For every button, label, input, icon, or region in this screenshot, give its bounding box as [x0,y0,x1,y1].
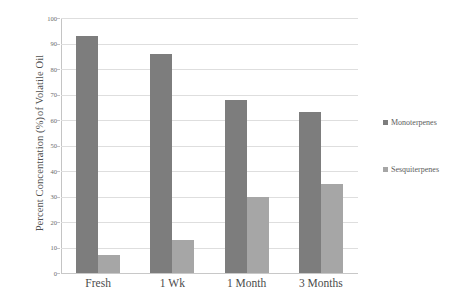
x-axis-tick-label: 3 Months [284,276,358,291]
y-axis-tick-label: 80 [35,66,57,73]
y-axis-tick-mark [57,95,60,96]
y-axis-tick-mark [57,171,60,172]
y-axis-tick-label: 90 [35,40,57,47]
legend-item[interactable]: Monoterpenes [383,118,437,127]
y-axis-tick-label: 40 [35,168,57,175]
y-axis-tick-label: 70 [35,91,57,98]
legend-label: Sesquiterpenes [391,165,439,174]
bar-monoterpenes-1-month[interactable] [225,100,247,273]
y-axis-tick-label: 30 [35,193,57,200]
x-axis-tick-labels: Fresh1 Wk1 Month3 Months [61,276,358,293]
bar-sesquiterpenes-1-wk[interactable] [172,240,194,273]
y-axis-tick-mark [57,273,60,274]
x-axis-tick-label: Fresh [61,276,135,291]
bar-chart: Percent Concentration (%) of Volatile Oi… [0,0,453,293]
y-axis-tick-label: 10 [35,244,57,251]
y-axis-tick-mark [57,44,60,45]
bar-sesquiterpenes-3-months[interactable] [321,184,343,273]
legend-item[interactable]: Sesquiterpenes [383,165,439,174]
y-axis-tick-mark [57,197,60,198]
bar-sesquiterpenes-1-month[interactable] [247,197,269,274]
y-axis-tick-labels: 0102030405060708090100 [33,18,57,273]
bar-group [225,18,269,273]
y-axis-tick-mark [57,120,60,121]
y-axis-tick-mark [57,222,60,223]
y-axis-tick-mark [57,248,60,249]
bar-group [299,18,343,273]
y-axis-tick-mark [57,69,60,70]
legend-swatch-icon [383,120,388,125]
bar-group [150,18,194,273]
y-axis-tick-mark [57,18,60,19]
bars-layer [61,18,358,273]
bar-sesquiterpenes-fresh[interactable] [98,255,120,273]
plot-area [61,18,358,273]
x-axis-tick-label: 1 Wk [135,276,209,291]
y-axis-tick-label: 60 [35,117,57,124]
y-axis-tick-label: 50 [35,142,57,149]
legend-label: Monoterpenes [391,118,437,127]
bar-group [76,18,120,273]
y-axis-tick-mark [57,146,60,147]
y-axis-tick-label: 100 [35,15,57,22]
x-axis-tick-label: 1 Month [210,276,284,291]
bar-monoterpenes-fresh[interactable] [76,36,98,273]
y-axis-tick-label: 0 [35,270,57,277]
bar-monoterpenes-3-months[interactable] [299,112,321,273]
legend-swatch-icon [383,167,388,172]
y-axis-tick-label: 20 [35,219,57,226]
bar-monoterpenes-1-wk[interactable] [150,54,172,273]
gridline [61,273,358,274]
